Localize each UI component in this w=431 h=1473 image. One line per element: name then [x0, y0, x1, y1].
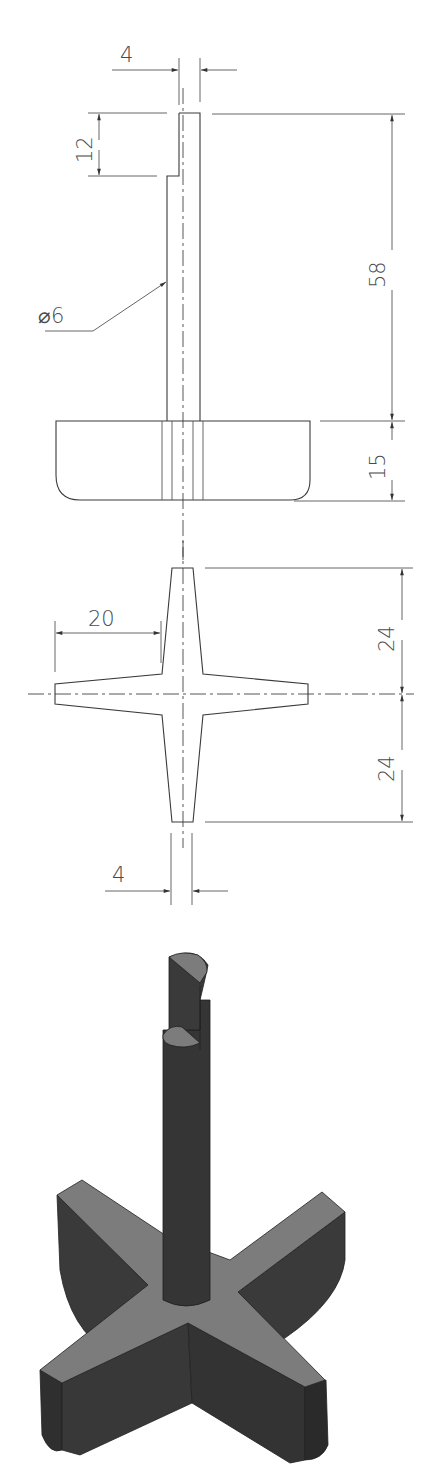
dim-tenon-width: 4	[120, 43, 133, 67]
arm-front-right-end	[305, 1380, 328, 1460]
dim-tenon-height: 12	[73, 136, 97, 163]
dim-shaft-length: 58	[366, 261, 390, 288]
front-view: 4 12 58 15 ⌀6	[38, 43, 405, 560]
dim-arm-tip-width: 4	[112, 863, 125, 887]
shaft-outline	[167, 113, 200, 421]
isometric-view	[40, 953, 345, 1463]
dim-arm-length: 20	[88, 607, 115, 631]
technical-drawing: 4 12 58 15 ⌀6 20	[0, 0, 431, 1473]
dim-lower-half: 24	[375, 755, 399, 782]
dim-shaft-diameter: ⌀6	[38, 304, 64, 328]
arm-front-left-end	[40, 1370, 62, 1451]
dim-base-height: 15	[366, 453, 390, 480]
dim-upper-half: 24	[375, 625, 399, 652]
leader-line	[93, 282, 166, 331]
top-view: 20 24 24 4	[28, 541, 414, 905]
